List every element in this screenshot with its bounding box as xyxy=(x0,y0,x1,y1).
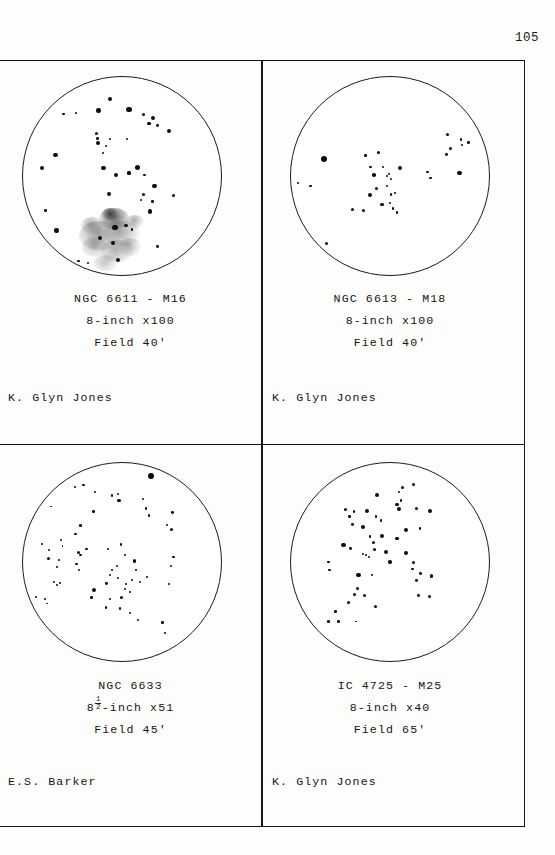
star-marker xyxy=(117,577,119,579)
star-marker xyxy=(35,596,37,598)
star-marker xyxy=(74,486,76,488)
star-marker xyxy=(126,138,128,140)
star-marker xyxy=(170,565,172,567)
star-marker xyxy=(386,185,389,188)
star-marker xyxy=(349,547,352,550)
nebula-patch xyxy=(93,255,119,271)
star-marker xyxy=(412,561,415,564)
star-marker xyxy=(396,211,398,213)
star-marker xyxy=(87,262,89,264)
instrument-label: 8-inch x100 xyxy=(262,310,518,332)
star-marker xyxy=(146,576,148,578)
star-marker xyxy=(426,171,429,174)
star-marker xyxy=(109,574,112,577)
star-marker xyxy=(105,606,107,608)
observer-credit: K. Glyn Jones xyxy=(8,391,113,404)
star-marker xyxy=(171,511,174,514)
observer-credit: K. Glyn Jones xyxy=(272,775,377,788)
star-marker xyxy=(96,141,100,145)
star-marker xyxy=(404,528,408,532)
star-marker xyxy=(95,132,98,135)
star-marker xyxy=(79,524,81,526)
star-marker xyxy=(168,583,170,585)
star-marker xyxy=(372,173,376,177)
star-marker xyxy=(101,166,106,171)
star-marker xyxy=(164,632,166,634)
star-marker xyxy=(337,620,339,622)
star-marker xyxy=(117,499,120,502)
star-marker xyxy=(62,545,64,547)
star-marker xyxy=(129,612,131,614)
star-marker xyxy=(355,621,357,623)
field-circle-ngc-6613-m18 xyxy=(290,76,490,276)
star-marker xyxy=(90,596,92,598)
star-marker xyxy=(56,584,58,586)
star-marker xyxy=(107,548,109,550)
fraction-denominator: 2 xyxy=(95,704,102,711)
star-marker xyxy=(460,138,462,140)
star-marker xyxy=(48,549,50,551)
star-marker xyxy=(77,260,79,262)
star-marker xyxy=(96,137,99,140)
star-marker xyxy=(374,605,377,608)
object-label: NGC 6611 - M16 xyxy=(0,288,261,310)
star-marker xyxy=(364,154,367,157)
star-marker xyxy=(347,601,350,604)
star-marker xyxy=(46,603,48,605)
field-circle-ic-4725-m25 xyxy=(290,462,490,662)
star-marker xyxy=(125,583,127,585)
instrument-label: 8-inch x40 xyxy=(262,697,518,719)
star-marker xyxy=(50,506,52,508)
star-marker xyxy=(94,491,96,493)
star-marker xyxy=(170,528,173,531)
star-marker xyxy=(62,113,64,115)
star-marker xyxy=(133,559,136,562)
object-label: IC 4725 - M25 xyxy=(262,675,518,697)
caption-ngc-6611-m16: NGC 6611 - M16 8-inch x100 Field 40' xyxy=(0,288,261,354)
observer-credit: K. Glyn Jones xyxy=(272,391,377,404)
star-marker xyxy=(74,533,76,535)
star-marker xyxy=(60,539,62,541)
star-marker xyxy=(371,574,373,576)
star-marker xyxy=(124,224,127,227)
star-marker xyxy=(166,524,168,526)
star-marker xyxy=(156,124,159,127)
star-marker xyxy=(388,560,392,564)
star-marker xyxy=(75,563,77,565)
star-marker xyxy=(127,171,130,174)
star-marker xyxy=(119,607,121,609)
star-marker xyxy=(85,548,87,550)
star-marker xyxy=(365,554,367,556)
star-marker xyxy=(351,208,354,211)
star-marker xyxy=(398,491,400,493)
star-marker xyxy=(415,579,418,582)
star-marker xyxy=(368,556,370,558)
object-label: NGC 6633 xyxy=(0,675,261,697)
star-marker xyxy=(430,574,433,577)
star-marker xyxy=(102,152,104,154)
star-marker xyxy=(380,519,382,521)
caption-ngc-6633: NGC 6633 812-inch x51 Field 45' xyxy=(0,675,261,741)
star-marker xyxy=(325,242,328,245)
instrument-suffix: -inch x51 xyxy=(102,701,175,714)
star-marker xyxy=(395,503,398,506)
star-marker xyxy=(392,207,395,210)
star-marker xyxy=(412,483,415,486)
star-marker xyxy=(142,113,145,116)
star-marker xyxy=(44,598,46,600)
star-marker xyxy=(353,593,356,596)
nebula-patch xyxy=(126,215,144,229)
star-marker xyxy=(419,572,422,575)
star-marker xyxy=(172,194,175,197)
star-marker xyxy=(56,566,58,568)
star-marker xyxy=(334,610,336,612)
nebula-patch xyxy=(102,208,118,220)
star-marker xyxy=(124,588,126,590)
field-label: Field 40' xyxy=(262,332,518,354)
star-marker xyxy=(361,525,365,529)
star-marker xyxy=(429,177,432,180)
star-marker xyxy=(411,568,414,571)
star-marker xyxy=(389,202,391,204)
star-marker xyxy=(467,141,470,144)
star-marker xyxy=(363,594,366,597)
